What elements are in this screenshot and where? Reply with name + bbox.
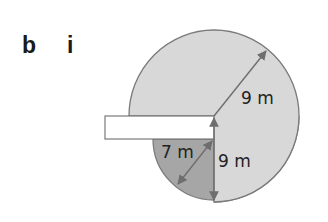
upper-radius-label: 9 m (241, 88, 274, 108)
lower-radius-label: 9 m (218, 151, 251, 171)
barrier-rectangle (105, 116, 214, 139)
small-radius-label: 7 m (161, 142, 194, 162)
tether-diagram: 9 m 9 m 7 m (0, 0, 328, 222)
